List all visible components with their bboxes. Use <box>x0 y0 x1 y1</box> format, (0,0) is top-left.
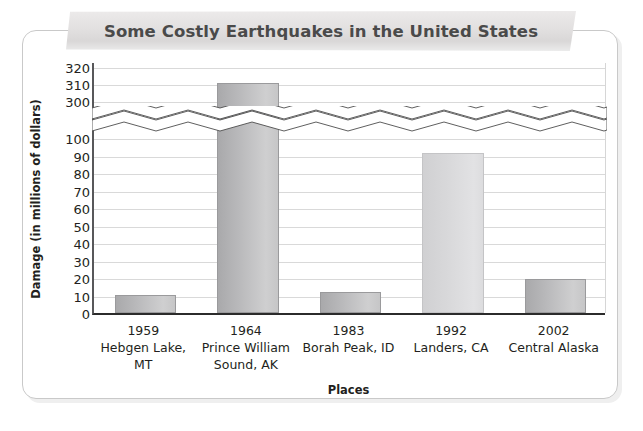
x-tick-year: 1959 <box>92 322 195 339</box>
x-tick-place: Prince William Sound, AK <box>195 339 298 373</box>
gridline <box>94 209 605 210</box>
y-tick-label: 320 <box>44 62 90 75</box>
y-tick-label: 20 <box>44 273 90 286</box>
x-tick-place: Landers, CA <box>400 339 503 356</box>
x-tick-label-1983: 1983Borah Peak, ID <box>297 322 400 378</box>
x-tick-year: 1964 <box>195 322 298 339</box>
x-tick-label-1959: 1959Hebgen Lake, MT <box>92 322 195 378</box>
x-tick-label-1992: 1992Landers, CA <box>400 322 503 378</box>
y-tick-label: 80 <box>44 168 90 181</box>
y-tick-label: 0 <box>44 308 90 321</box>
y-tick-label: 30 <box>44 256 90 269</box>
gridline <box>94 192 605 193</box>
x-tick-place: Central Alaska <box>502 339 605 356</box>
bar-1964 <box>217 83 279 313</box>
x-tick-year: 1992 <box>400 322 503 339</box>
y-tick-label: 50 <box>44 221 90 234</box>
gridline <box>94 139 605 140</box>
y-tick-label: 90 <box>44 151 90 164</box>
bar-1992 <box>422 153 484 313</box>
chart-title: Some Costly Earthquakes in the United St… <box>66 11 576 51</box>
x-tick-label-1964: 1964Prince William Sound, AK <box>195 322 298 378</box>
bar-2002 <box>525 279 587 313</box>
y-tick-label: 70 <box>44 186 90 199</box>
gridline <box>94 227 605 228</box>
gridline <box>94 85 605 86</box>
gridline <box>94 157 605 158</box>
chart-area: Damage (in millions of dollars) 32031030… <box>0 0 643 431</box>
gridline <box>94 262 605 263</box>
gridline <box>94 68 605 69</box>
y-tick-label: 60 <box>44 203 90 216</box>
gridline <box>94 102 605 103</box>
y-axis-title: Damage (in millions of dollars) <box>29 99 43 299</box>
plot-area <box>92 63 605 315</box>
x-tick-year: 2002 <box>502 322 605 339</box>
x-tick-label-2002: 2002Central Alaska <box>502 322 605 378</box>
gridline <box>94 174 605 175</box>
y-tick-label: 40 <box>44 238 90 251</box>
x-axis-title: Places <box>92 383 605 397</box>
y-tick-label: 300 <box>44 96 90 109</box>
y-axis-tick-labels: 3203103001009080706050403020100 <box>44 0 90 431</box>
y-tick-label: 10 <box>44 291 90 304</box>
x-tick-place: Borah Peak, ID <box>297 339 400 356</box>
y-tick-label: 310 <box>44 79 90 92</box>
gridline <box>94 244 605 245</box>
x-tick-place: Hebgen Lake, MT <box>92 339 195 373</box>
y-tick-label: 100 <box>44 133 90 146</box>
bar-1959 <box>115 295 177 313</box>
x-tick-year: 1983 <box>297 322 400 339</box>
bar-1983 <box>320 292 382 313</box>
x-axis-tick-labels: 1959Hebgen Lake, MT1964Prince William So… <box>92 322 605 378</box>
